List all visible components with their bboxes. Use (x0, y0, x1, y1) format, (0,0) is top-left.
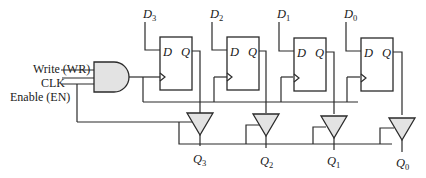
flipflop-0: D Q (361, 38, 393, 91)
d2-label: D2 (209, 7, 223, 23)
clk-label: CLK (41, 76, 65, 90)
ff2-d-label: D (229, 45, 239, 59)
ff0-q-label: Q (382, 46, 391, 60)
q0-label: Q0 (396, 156, 409, 172)
and-gate (94, 62, 129, 92)
q3-label: Q3 (193, 152, 206, 168)
register-diagram: Write (WR) CLK Enable (EN) D Q D (0, 0, 426, 178)
tristate-buffer-0 (389, 118, 415, 140)
d1-label: D1 (276, 7, 290, 23)
output-labels: Q3 Q2 Q1 Q0 (193, 152, 409, 172)
ff2-q-label: Q (248, 45, 257, 59)
ff3-q-label: Q (181, 45, 190, 59)
q1-label: Q1 (327, 154, 340, 170)
enable-bus (77, 122, 394, 144)
flipflop-1: D Q (294, 38, 326, 91)
d0-label: D0 (343, 7, 357, 23)
flipflop-3: D Q (160, 37, 192, 90)
flipflop-2: D Q (227, 37, 259, 90)
d3-label: D3 (142, 7, 156, 23)
enable-label: Enable (EN) (10, 90, 70, 104)
circuit-svg: Write (WR) CLK Enable (EN) D Q D (0, 0, 426, 178)
tristate-buffer-3 (187, 113, 213, 135)
write-label: Write (WR) (33, 62, 90, 76)
ff3-d-label: D (162, 45, 172, 59)
ff0-d-label: D (363, 46, 373, 60)
data-input-labels: D3 D2 D1 D0 (142, 7, 357, 23)
ff1-q-label: Q (315, 46, 324, 60)
ff1-d-label: D (296, 46, 306, 60)
q2-label: Q2 (260, 154, 273, 170)
